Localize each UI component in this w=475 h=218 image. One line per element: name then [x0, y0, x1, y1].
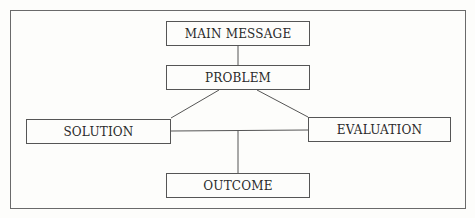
edge-problem-evaluation	[257, 90, 308, 117]
node-problem: PROBLEM	[166, 65, 310, 90]
node-main-message: MAIN MESSAGE	[166, 21, 310, 46]
edge-solution-evaluation	[171, 130, 308, 131]
node-evaluation: EVALUATION	[308, 117, 451, 142]
edge-problem-solution	[171, 90, 219, 118]
node-outcome: OUTCOME	[166, 173, 310, 198]
node-solution: SOLUTION	[26, 119, 171, 144]
